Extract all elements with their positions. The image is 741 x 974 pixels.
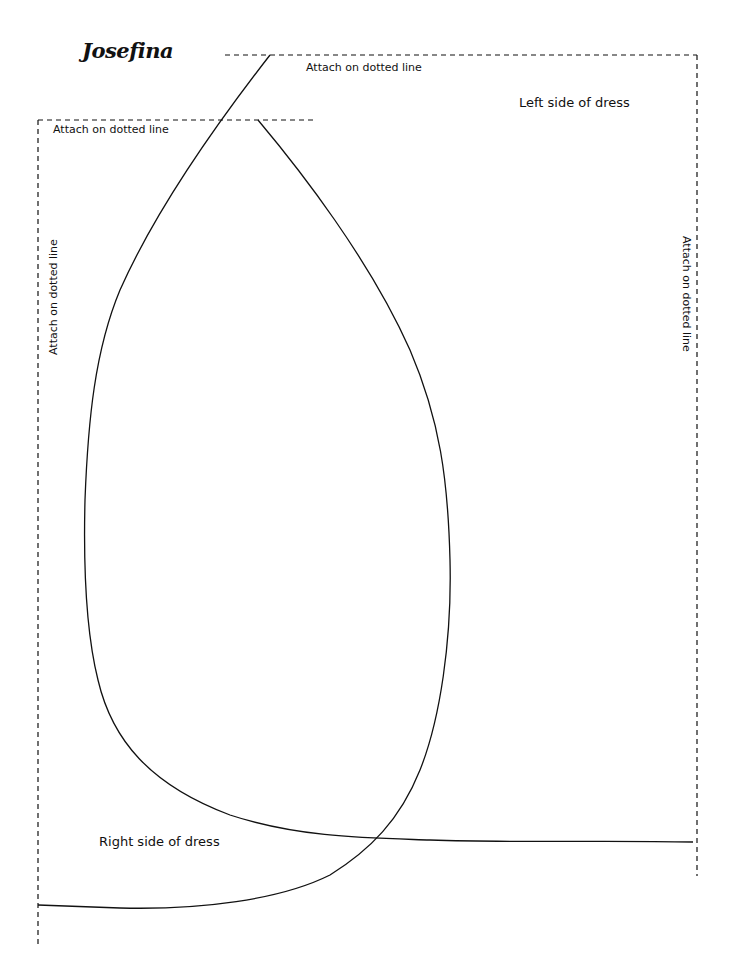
right-side-dashed-frame [38,120,316,946]
template-page: Josefina Attach on dotted line Attach on… [0,0,741,974]
left-side-of-dress-label: Left side of dress [519,95,630,110]
attach-label-top-left: Attach on dotted line [53,123,169,136]
dress-pattern-drawing [0,0,741,974]
doll-name-title: Josefina [82,38,173,63]
attach-label-right-vertical: Attach on dotted line [680,236,693,352]
left-side-dashed-frame [225,55,697,876]
attach-label-left-vertical: Attach on dotted line [47,239,60,355]
right-side-of-dress-label: Right side of dress [99,834,220,849]
right-side-dress-outline [38,120,450,908]
attach-label-top-right: Attach on dotted line [306,61,422,74]
left-side-dress-outline [85,55,693,842]
